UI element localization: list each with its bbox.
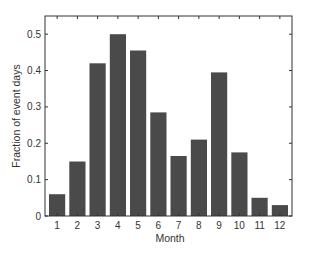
bar-month-7 bbox=[171, 156, 187, 216]
bar-month-3 bbox=[90, 63, 106, 216]
x-tick-label: 9 bbox=[216, 220, 222, 231]
bar-month-2 bbox=[69, 162, 85, 217]
x-tick-label: 12 bbox=[274, 220, 286, 231]
bar-month-10 bbox=[231, 152, 247, 216]
bar-month-6 bbox=[150, 112, 166, 216]
x-tick-label: 10 bbox=[234, 220, 246, 231]
y-tick-label: 0.3 bbox=[27, 101, 41, 112]
x-tick-label: 4 bbox=[115, 220, 121, 231]
bar-month-4 bbox=[110, 34, 126, 216]
x-tick-label: 3 bbox=[95, 220, 101, 231]
x-tick-label: 2 bbox=[75, 220, 81, 231]
bar-chart: 00.10.20.30.40.5 123456789101112 Month F… bbox=[0, 0, 311, 254]
bars-group bbox=[49, 34, 288, 216]
x-tick-label: 8 bbox=[196, 220, 202, 231]
x-tick-label: 7 bbox=[176, 220, 182, 231]
y-tick-label: 0.1 bbox=[27, 174, 41, 185]
bar-month-5 bbox=[130, 51, 146, 217]
x-tick-label: 11 bbox=[254, 220, 265, 231]
x-tick-label: 5 bbox=[135, 220, 141, 231]
y-tick-label: 0.2 bbox=[27, 138, 41, 149]
y-tick-label: 0.5 bbox=[27, 29, 41, 40]
y-axis-label: Fraction of event days bbox=[10, 64, 22, 167]
y-tick-label: 0.4 bbox=[27, 65, 41, 76]
y-tick-label: 0 bbox=[35, 211, 41, 222]
x-tick-label: 1 bbox=[54, 220, 60, 231]
x-tick-label: 6 bbox=[156, 220, 162, 231]
bar-month-8 bbox=[191, 140, 207, 216]
x-axis-label: Month bbox=[155, 232, 184, 244]
bar-month-1 bbox=[49, 194, 65, 216]
x-axis-ticks: 123456789101112 bbox=[54, 16, 285, 231]
bar-month-9 bbox=[211, 72, 227, 216]
